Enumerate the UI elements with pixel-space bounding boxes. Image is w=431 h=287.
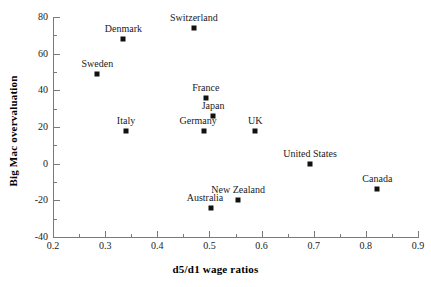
x-tick-major — [366, 231, 367, 238]
y-tick-major — [53, 17, 60, 18]
y-tick-minor — [53, 219, 57, 220]
y-tick-major — [53, 164, 60, 165]
data-point-marker — [95, 71, 100, 76]
data-point-label: Germany — [180, 116, 217, 126]
y-tick-label: -20 — [20, 195, 48, 205]
data-point-marker — [124, 128, 129, 133]
y-tick-major — [53, 237, 60, 238]
x-tick-label: 0.5 — [192, 241, 226, 251]
scatter-chart: 806040200-20-400.20.30.40.50.60.70.80.9 … — [0, 0, 431, 287]
x-tick-minor — [131, 234, 132, 238]
data-point-marker — [375, 187, 380, 192]
x-tick-minor — [340, 234, 341, 238]
x-tick-major — [262, 231, 263, 238]
x-tick-major — [418, 231, 419, 238]
x-tick-label: 0.4 — [140, 241, 174, 251]
data-point-label: France — [192, 83, 219, 93]
data-point-marker — [208, 205, 213, 210]
x-tick-minor — [288, 234, 289, 238]
x-tick-minor — [79, 234, 80, 238]
data-point-label: Denmark — [105, 24, 142, 34]
y-tick-label: 40 — [20, 85, 48, 95]
y-tick-label: 20 — [20, 122, 48, 132]
data-point-marker — [202, 128, 207, 133]
data-point-marker — [308, 161, 313, 166]
data-point-marker — [253, 128, 258, 133]
x-tick-label: 0.7 — [297, 241, 331, 251]
data-point-marker — [191, 26, 196, 31]
x-tick-minor — [236, 234, 237, 238]
y-tick-major — [53, 200, 60, 201]
data-point-label: United States — [283, 149, 337, 159]
y-tick-major — [53, 90, 60, 91]
data-point-label: Italy — [117, 116, 135, 126]
y-tick-label: 80 — [20, 12, 48, 22]
x-tick-minor — [183, 234, 184, 238]
x-tick-major — [314, 231, 315, 238]
data-point-label: Sweden — [81, 59, 113, 69]
x-tick-major — [53, 231, 54, 238]
x-tick-label: 0.2 — [36, 241, 70, 251]
x-tick-label: 0.9 — [401, 241, 431, 251]
data-point-label: Australia — [187, 193, 224, 203]
y-tick-minor — [53, 35, 57, 36]
data-point-marker — [121, 37, 126, 42]
x-axis-title: d5/d1 wage ratios — [0, 263, 431, 275]
x-tick-minor — [392, 234, 393, 238]
y-tick-major — [53, 54, 60, 55]
data-point-label: UK — [248, 116, 262, 126]
data-point-marker — [236, 198, 241, 203]
data-point-label: Switzerland — [170, 13, 218, 23]
x-tick-label: 0.3 — [88, 241, 122, 251]
y-tick-minor — [53, 109, 57, 110]
y-tick-label: 60 — [20, 49, 48, 59]
x-tick-major — [157, 231, 158, 238]
y-tick-minor — [53, 72, 57, 73]
x-tick-major — [105, 231, 106, 238]
y-tick-minor — [53, 145, 57, 146]
x-tick-label: 0.8 — [349, 241, 383, 251]
y-axis-title: Big Mac overvaluation — [7, 56, 19, 206]
x-tick-label: 0.6 — [245, 241, 279, 251]
data-point-label: Canada — [362, 174, 392, 184]
y-tick-label: 0 — [20, 159, 48, 169]
data-point-label: Japan — [202, 101, 225, 111]
y-tick-minor — [53, 182, 57, 183]
x-tick-major — [209, 231, 210, 238]
y-tick-major — [53, 127, 60, 128]
